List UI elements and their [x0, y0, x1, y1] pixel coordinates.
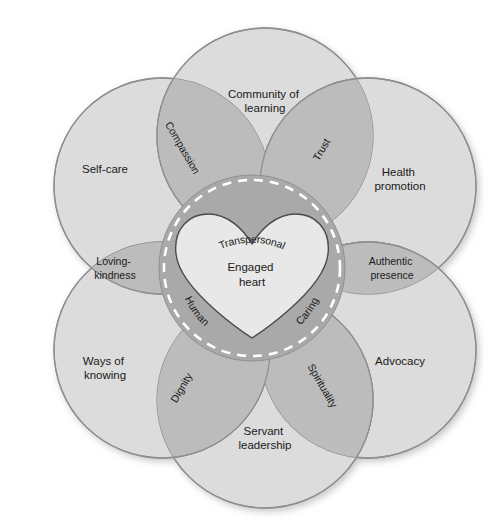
engaged-heart-diagram: Community of learning Health promotion A… [0, 0, 501, 523]
petal-label-advocacy: Advocacy [375, 355, 425, 367]
diagram-canvas: Community of learning Health promotion A… [0, 0, 501, 523]
petal-label-self-care: Self-care [82, 163, 128, 175]
